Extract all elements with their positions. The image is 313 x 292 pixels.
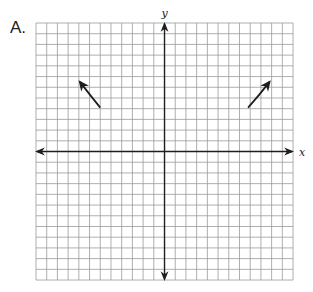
left-end-behavior-arrow xyxy=(80,82,100,108)
end-behavior-curves xyxy=(80,82,270,108)
coordinate-plane: x y xyxy=(0,0,313,292)
x-axis-label: x xyxy=(299,146,306,159)
right-end-behavior-arrow xyxy=(248,82,269,108)
y-axis-label: y xyxy=(161,7,169,20)
